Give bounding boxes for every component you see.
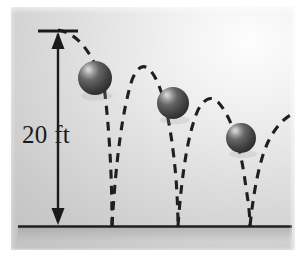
dimension-arrowhead-down [52,208,65,225]
ball-group [78,61,257,158]
trajectory-arc-3 [178,98,250,226]
trajectory-arc-4 [250,114,292,226]
dimension-arrowhead-up [52,32,65,49]
trajectory-path-group [58,30,292,226]
ball-2 [157,87,190,124]
ball-1-body [78,61,112,95]
ball-1 [78,61,113,101]
dimension-label: 20 ft [22,122,70,147]
ball-3-body [226,123,256,153]
ground-shadow [18,227,292,241]
ball-2-body [157,87,189,119]
bouncing-ball-figure: 20 ft [0,0,299,256]
ball-3 [226,123,257,158]
